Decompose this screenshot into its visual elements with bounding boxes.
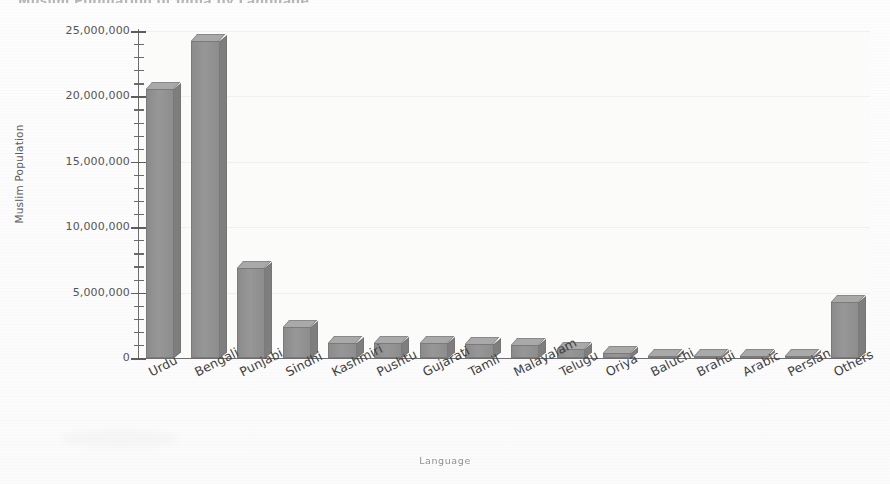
y-axis-minor-tick: [134, 175, 144, 176]
bar-top-face: [603, 346, 638, 353]
bar-side-face: [220, 36, 227, 358]
bar-front-face: [191, 41, 219, 358]
y-axis-major-tick: [131, 358, 146, 360]
y-axis-minor-tick: [134, 70, 144, 71]
y-axis-minor-tick: [134, 306, 144, 307]
y-axis-minor-tick: [134, 44, 144, 45]
y-axis-minor-tick: [134, 345, 144, 346]
y-axis-tick-label: 5,000,000: [20, 286, 130, 299]
bar-top-face: [831, 295, 866, 302]
y-axis-minor-tick: [134, 253, 144, 254]
bar-front-face: [831, 302, 859, 358]
x-axis-title: Language: [0, 455, 890, 466]
y-axis-minor-tick: [134, 280, 144, 281]
bar: [328, 31, 356, 358]
y-axis-tick-label: 25,000,000: [20, 24, 130, 37]
y-axis-tick-labels: 25,000,00020,000,00015,000,00010,000,000…: [14, 0, 130, 484]
bar-top-face: [283, 320, 318, 327]
y-axis-minor-tick: [134, 83, 144, 84]
y-axis-minor-tick: [134, 188, 144, 189]
y-axis-tick-label: 20,000,000: [20, 89, 130, 102]
bar: [146, 31, 174, 358]
y-axis-title: Muslim Population: [13, 104, 25, 244]
bar-side-face: [311, 321, 318, 358]
bar-front-face: [374, 343, 402, 358]
bar: [694, 31, 722, 358]
bar-top-face: [420, 336, 455, 343]
y-axis-minor-tick: [134, 266, 144, 267]
y-axis-minor-tick: [134, 149, 144, 150]
bar: [785, 31, 813, 358]
chart-page: Muslim Population of India by Language 2…: [0, 0, 890, 484]
bar-side-face: [265, 262, 272, 358]
bar: [603, 31, 631, 358]
bar: [191, 31, 219, 358]
bar-front-face: [465, 344, 493, 358]
y-axis-minor-tick: [134, 201, 144, 202]
y-axis-minor-tick: [134, 332, 144, 333]
y-axis-major-tick: [131, 31, 146, 33]
bar-front-face: [328, 343, 356, 358]
y-axis-minor-tick: [134, 240, 144, 241]
y-axis-tick-label: 0: [20, 351, 130, 364]
y-axis-minor-tick: [134, 109, 144, 110]
y-axis-major-tick: [131, 162, 146, 164]
bar: [557, 31, 585, 358]
bar-top-face: [237, 261, 272, 268]
x-axis-line: [138, 358, 871, 359]
y-axis-minor-tick: [134, 123, 144, 124]
y-axis-major-tick: [131, 293, 146, 295]
bar: [740, 31, 768, 358]
y-axis-tick-label: 10,000,000: [20, 220, 130, 233]
bar: [465, 31, 493, 358]
bar-front-face: [557, 349, 585, 358]
bar: [831, 31, 859, 358]
bar-side-face: [859, 296, 866, 358]
bar: [374, 31, 402, 358]
bar-front-face: [283, 327, 311, 358]
bar-top-face: [557, 342, 592, 349]
bar: [237, 31, 265, 358]
y-axis-minor-tick: [134, 319, 144, 320]
y-axis-minor-tick: [134, 57, 144, 58]
bar: [648, 31, 676, 358]
y-axis-minor-tick: [134, 214, 144, 215]
bar-front-face: [420, 343, 448, 358]
bar-side-face: [174, 83, 181, 358]
bar-front-face: [237, 268, 265, 358]
bar: [420, 31, 448, 358]
bar-front-face: [146, 89, 174, 358]
bar-front-face: [511, 345, 539, 358]
bar-top-face: [740, 349, 775, 356]
bar: [283, 31, 311, 358]
y-axis-major-tick: [131, 227, 146, 229]
y-axis-line: [138, 29, 139, 360]
bar: [511, 31, 539, 358]
y-axis-minor-tick: [134, 136, 144, 137]
y-axis-tick-label: 15,000,000: [20, 155, 130, 168]
bar-top-face: [146, 82, 181, 89]
y-axis-major-tick: [131, 96, 146, 98]
plot-area: [139, 31, 870, 358]
